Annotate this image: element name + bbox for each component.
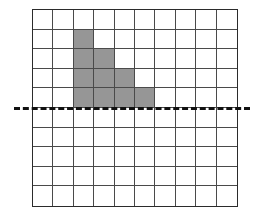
grid-cell xyxy=(135,30,155,50)
grid-cell xyxy=(74,128,94,148)
grid-cell-shaded xyxy=(94,88,114,108)
grid-cell xyxy=(74,10,94,30)
grid-cell xyxy=(155,88,175,108)
grid-cell xyxy=(74,108,94,128)
grid-cell xyxy=(53,10,73,30)
grid-cell xyxy=(155,30,175,50)
grid-cell xyxy=(196,147,216,167)
grid-cell xyxy=(196,10,216,30)
grid-cell xyxy=(217,167,237,187)
grid-cell xyxy=(135,128,155,148)
grid-cell xyxy=(217,88,237,108)
grid-cell xyxy=(155,147,175,167)
grid-figure xyxy=(0,0,259,218)
grid-cell xyxy=(115,30,135,50)
grid-cell xyxy=(115,10,135,30)
grid-cell xyxy=(115,49,135,69)
grid-cell-shaded xyxy=(115,88,135,108)
grid-cell xyxy=(196,167,216,187)
grid-cell xyxy=(53,30,73,50)
grid-cell xyxy=(33,88,53,108)
grid-cell xyxy=(135,186,155,206)
grid-cell xyxy=(196,186,216,206)
grid-cell xyxy=(33,108,53,128)
grid-cell xyxy=(176,10,196,30)
grid-cell xyxy=(155,69,175,89)
grid-cell xyxy=(217,147,237,167)
grid-cell xyxy=(135,167,155,187)
grid-cell-shaded xyxy=(74,88,94,108)
grid-cell xyxy=(176,147,196,167)
grid-cell xyxy=(33,167,53,187)
grid-cell xyxy=(176,186,196,206)
grid-cell xyxy=(53,88,73,108)
grid-cell xyxy=(176,30,196,50)
grid-cell xyxy=(33,147,53,167)
grid-cell xyxy=(33,30,53,50)
grid-cell xyxy=(115,167,135,187)
grid-cell xyxy=(155,10,175,30)
grid-cell xyxy=(217,30,237,50)
grid-cell xyxy=(196,49,216,69)
grid-cell xyxy=(135,69,155,89)
grid-cell xyxy=(155,49,175,69)
grid-cell xyxy=(155,108,175,128)
grid-cell xyxy=(176,49,196,69)
grid-cell xyxy=(196,30,216,50)
grid-cell xyxy=(135,147,155,167)
grid-cell xyxy=(196,108,216,128)
grid-cell xyxy=(155,128,175,148)
grid-cell xyxy=(33,186,53,206)
grid-cell xyxy=(135,108,155,128)
grid-cell xyxy=(196,88,216,108)
grid-cell xyxy=(53,186,73,206)
grid-cell xyxy=(74,167,94,187)
grid-cell xyxy=(176,69,196,89)
grid-cell xyxy=(217,128,237,148)
grid-cell xyxy=(94,186,114,206)
grid-cell xyxy=(196,128,216,148)
grid-cell xyxy=(94,147,114,167)
grid-cell-shaded xyxy=(94,69,114,89)
grid-cell-shaded xyxy=(74,30,94,50)
grid-cell xyxy=(176,88,196,108)
grid-cell xyxy=(115,186,135,206)
grid-cell xyxy=(196,69,216,89)
grid-cell xyxy=(33,128,53,148)
grid-cell xyxy=(94,167,114,187)
grid-cell xyxy=(94,128,114,148)
grid-cell-shaded xyxy=(74,49,94,69)
grid-cell xyxy=(155,186,175,206)
grid-cell xyxy=(217,108,237,128)
grid-cell xyxy=(155,167,175,187)
grid-cell xyxy=(217,10,237,30)
grid-cell xyxy=(135,10,155,30)
dashed-line-of-symmetry xyxy=(14,107,250,110)
grid-cell-shaded xyxy=(135,88,155,108)
grid-cell xyxy=(176,108,196,128)
grid-cell xyxy=(217,49,237,69)
grid-cell xyxy=(74,186,94,206)
grid-cell xyxy=(53,128,73,148)
grid-cell-shaded xyxy=(94,49,114,69)
grid-cell xyxy=(115,147,135,167)
grid-cell xyxy=(53,69,73,89)
grid-cell xyxy=(53,167,73,187)
grid-cell xyxy=(115,108,135,128)
grid-cell xyxy=(53,108,73,128)
grid-cell xyxy=(33,69,53,89)
grid-cell xyxy=(135,49,155,69)
grid-cell xyxy=(217,186,237,206)
grid-cell xyxy=(33,49,53,69)
grid-cell-shaded xyxy=(74,69,94,89)
grid-cell xyxy=(53,147,73,167)
grid-cell xyxy=(94,108,114,128)
grid-cell xyxy=(176,128,196,148)
grid-cell xyxy=(33,10,53,30)
grid-cell-shaded xyxy=(115,69,135,89)
grid-cell xyxy=(94,10,114,30)
grid-cell xyxy=(94,30,114,50)
grid-cell xyxy=(217,69,237,89)
grid-cell xyxy=(53,49,73,69)
grid-cell xyxy=(74,147,94,167)
